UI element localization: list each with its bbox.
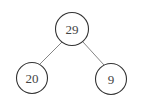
tree-node-root: 29 bbox=[56, 13, 89, 46]
edge-root-right bbox=[83, 42, 104, 65]
tree-node-right: 9 bbox=[96, 64, 127, 95]
tree-node-left: 20 bbox=[17, 63, 48, 94]
node-label: 29 bbox=[66, 22, 79, 37]
binary-tree-diagram: 29 20 9 bbox=[0, 0, 141, 103]
node-label: 9 bbox=[108, 72, 115, 87]
node-label: 20 bbox=[26, 71, 39, 86]
edge-root-left bbox=[40, 42, 62, 64]
